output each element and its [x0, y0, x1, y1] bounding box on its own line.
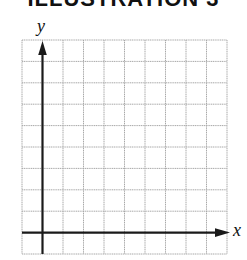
y-axis-arrow-icon [38, 41, 47, 55]
x-axis-arrow-icon [215, 228, 230, 237]
x-axis [22, 228, 230, 237]
y-axis-label: y [37, 16, 45, 37]
grid-lines [22, 40, 227, 254]
coordinate-grid [0, 0, 247, 260]
x-axis-label: x [233, 220, 241, 241]
